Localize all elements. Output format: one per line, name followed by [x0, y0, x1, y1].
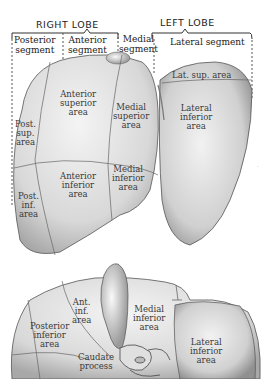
- right-lobe-header: RIGHT LOBE: [36, 19, 99, 30]
- medial-segment-label: Medial segment: [119, 34, 158, 54]
- post-inf-area-label: Post. inf. area: [18, 192, 39, 219]
- left-lobe-header: LEFT LOBE: [160, 17, 215, 28]
- inferior-lateral-inferior-area-label: Lateral inferior area: [190, 338, 222, 365]
- posterior-inferior-area-label: Posterior inferior area: [30, 322, 69, 349]
- lat-sup-area-label: Lat. sup. area: [172, 71, 231, 80]
- lateral-inferior-area-label: Lateral inferior area: [180, 104, 212, 131]
- ant-inf-area-label: Ant. inf. area: [72, 298, 91, 325]
- caudate-process-label: Caudate process: [78, 353, 114, 371]
- post-sup-area-label: Post. sup. area: [15, 120, 36, 147]
- medial-inferior-area-label: Medial inferior area: [112, 165, 144, 192]
- lateral-segment-label: Lateral segment: [170, 37, 245, 47]
- anterior-inferior-area-label: Anterior inferior area: [60, 172, 96, 199]
- left-lobe-superior: [159, 62, 252, 245]
- inferior-medial-inferior-area-label: Medial inferior area: [133, 305, 165, 332]
- medial-superior-area-label: Medial superior area: [113, 103, 149, 130]
- svg-text:·: ·: [257, 163, 259, 169]
- posterior-segment-label: Posterior segment: [14, 35, 56, 55]
- anterior-segment-label: Anterior segment: [68, 35, 107, 55]
- anterior-superior-area-label: Anterior superior area: [60, 90, 96, 117]
